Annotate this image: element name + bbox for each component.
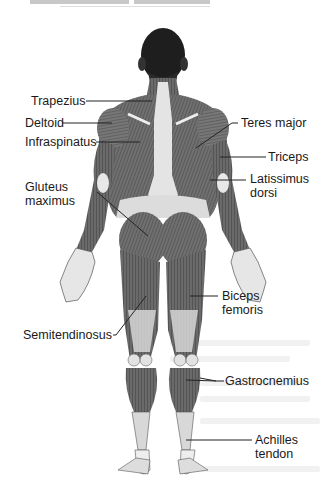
label-latissimus-dorsi: Latissimus dorsi: [250, 172, 309, 200]
label-line: Achilles: [255, 433, 298, 447]
label-line: maximus: [25, 194, 75, 208]
label-triceps: Triceps: [268, 150, 309, 164]
label-line: Gluteus: [25, 180, 75, 194]
label-line: Latissimus: [250, 172, 309, 186]
left-arm: [60, 140, 115, 302]
label-trapezius: Trapezius: [31, 94, 85, 108]
muscle-figure: [0, 0, 324, 485]
label-line: tendon: [255, 447, 298, 461]
label-line: dorsi: [250, 186, 309, 200]
left-calf: [126, 368, 157, 412]
label-line: Biceps: [222, 289, 263, 303]
label-gluteus-maximus: Gluteus maximus: [25, 180, 75, 208]
label-infraspinatus: Infraspinatus: [25, 135, 97, 149]
label-achilles-tendon: Achilles tendon: [255, 433, 298, 461]
torso: [99, 82, 227, 218]
label-deltoid: Deltoid: [25, 116, 64, 130]
label-biceps-femoris: Biceps femoris: [222, 289, 263, 317]
right-arm: [211, 140, 266, 302]
label-line: femoris: [222, 303, 263, 317]
label-semitendinosus: Semitendinosus: [23, 328, 112, 342]
label-teres-major: Teres major: [241, 116, 306, 130]
head: [138, 28, 188, 82]
right-calf: [169, 368, 200, 412]
label-gastrocnemius: Gastrocnemius: [225, 374, 309, 388]
